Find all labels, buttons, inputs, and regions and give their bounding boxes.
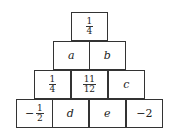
cell-r4-c3: e [89, 99, 126, 128]
negative-fraction: − 1 2 [25, 104, 44, 123]
cell-r2-c1: a [53, 41, 90, 70]
variable-b: b [104, 49, 111, 62]
fraction: 1 4 [49, 75, 57, 94]
denominator: 12 [83, 85, 96, 94]
cell-r1-c1: 1 4 [71, 12, 108, 41]
minus-sign: − [25, 107, 34, 120]
cell-r2-c2: b [89, 41, 126, 70]
cell-r3-c2: 11 12 [71, 70, 108, 99]
variable-c: c [123, 78, 129, 91]
fraction: 1 4 [86, 17, 94, 36]
denominator: 4 [49, 85, 57, 94]
cell-r4-c4: −2 [126, 99, 163, 128]
denominator: 2 [36, 114, 44, 123]
cell-r4-c2: d [52, 99, 89, 128]
variable-d: d [67, 107, 74, 120]
cell-r3-c1: 1 4 [34, 70, 71, 99]
variable-a: a [68, 49, 75, 62]
cell-r4-c1: − 1 2 [16, 99, 53, 128]
number-value: −2 [136, 107, 152, 120]
fraction: 1 2 [36, 104, 44, 123]
variable-e: e [104, 107, 111, 120]
cell-r3-c3: c [108, 70, 145, 99]
denominator: 4 [86, 27, 94, 36]
fraction: 11 12 [83, 75, 96, 94]
